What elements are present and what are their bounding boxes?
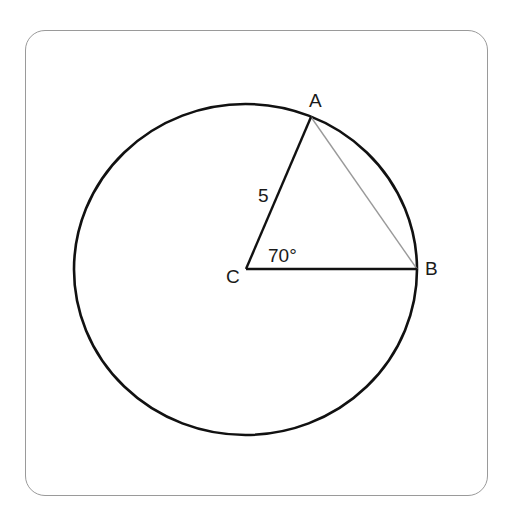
label-radius-length: 5 [258, 185, 269, 206]
label-point-a: A [309, 90, 322, 111]
label-central-angle: 70° [268, 245, 297, 266]
label-point-b: B [425, 258, 438, 279]
label-point-c: C [226, 266, 240, 287]
circle-diagram: A B C 5 70° [0, 0, 512, 517]
chord-ab [311, 117, 417, 269]
